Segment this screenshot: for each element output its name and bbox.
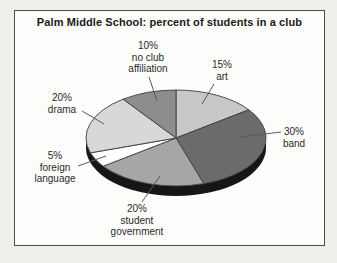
slice-label-no-club-affiliation: 10% no club affiliation bbox=[128, 40, 167, 75]
slice-label-drama: 20% drama bbox=[48, 92, 76, 115]
pie-chart-figure: Palm Middle School: percent of students … bbox=[0, 0, 337, 263]
slice-label-art: 15% art bbox=[212, 59, 232, 82]
slice-label-student-government: 20% student government bbox=[111, 203, 164, 238]
slice-label-foreign-language: 5% foreign language bbox=[34, 150, 75, 185]
slice-label-band: 30% band bbox=[283, 126, 305, 149]
